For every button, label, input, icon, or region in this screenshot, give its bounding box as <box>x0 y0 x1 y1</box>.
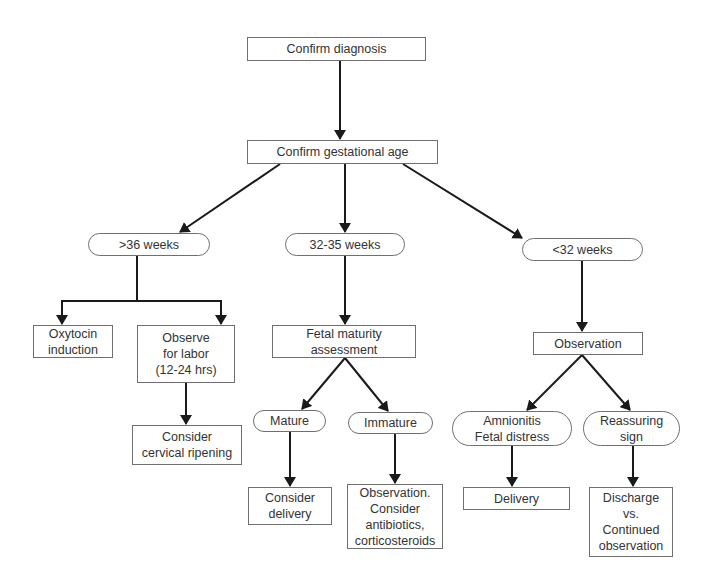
arrow-maturity-to-immature <box>345 358 388 411</box>
flowchart: Confirm diagnosis Confirm gestational ag… <box>0 0 708 587</box>
node-confirm-gestational-age: Confirm gestational age <box>247 140 438 164</box>
node-gt36-weeks: >36 weeks <box>88 233 210 256</box>
node-lt32-weeks: <32 weeks <box>522 238 643 261</box>
node-mature: Mature <box>253 410 326 432</box>
node-observation-antibiotics: Observation. Consider antibiotics, corti… <box>347 484 443 549</box>
node-delivery: Delivery <box>463 487 570 510</box>
node-observation: Observation <box>533 332 643 355</box>
node-confirm-diagnosis: Confirm diagnosis <box>247 37 426 61</box>
arrow-age-to-lt32 <box>403 164 522 238</box>
arrow-age-to-gt36 <box>180 164 280 232</box>
node-32-35-weeks: 32-35 weeks <box>285 233 405 256</box>
node-reassuring-sign: Reassuring sign <box>583 411 680 446</box>
arrow-maturity-to-mature <box>302 358 345 409</box>
node-fetal-maturity-assessment: Fetal maturity assessment <box>272 325 416 358</box>
arrow-observation-to-reassuring <box>582 355 630 410</box>
node-consider-cervical-ripening: Consider cervical ripening <box>132 425 242 465</box>
node-consider-delivery: Consider delivery <box>248 487 332 525</box>
node-immature: Immature <box>348 412 433 434</box>
arrow-observation-to-amnionitis <box>527 355 582 410</box>
node-amnionitis-fetal-distress: Amnionitis Fetal distress <box>452 411 572 446</box>
node-discharge-vs-continued-observation: Discharge vs. Continued observation <box>589 487 673 557</box>
node-observe-for-labor: Observe for labor (12-24 hrs) <box>137 325 235 383</box>
node-oxytocin-induction: Oxytocin induction <box>33 325 113 358</box>
